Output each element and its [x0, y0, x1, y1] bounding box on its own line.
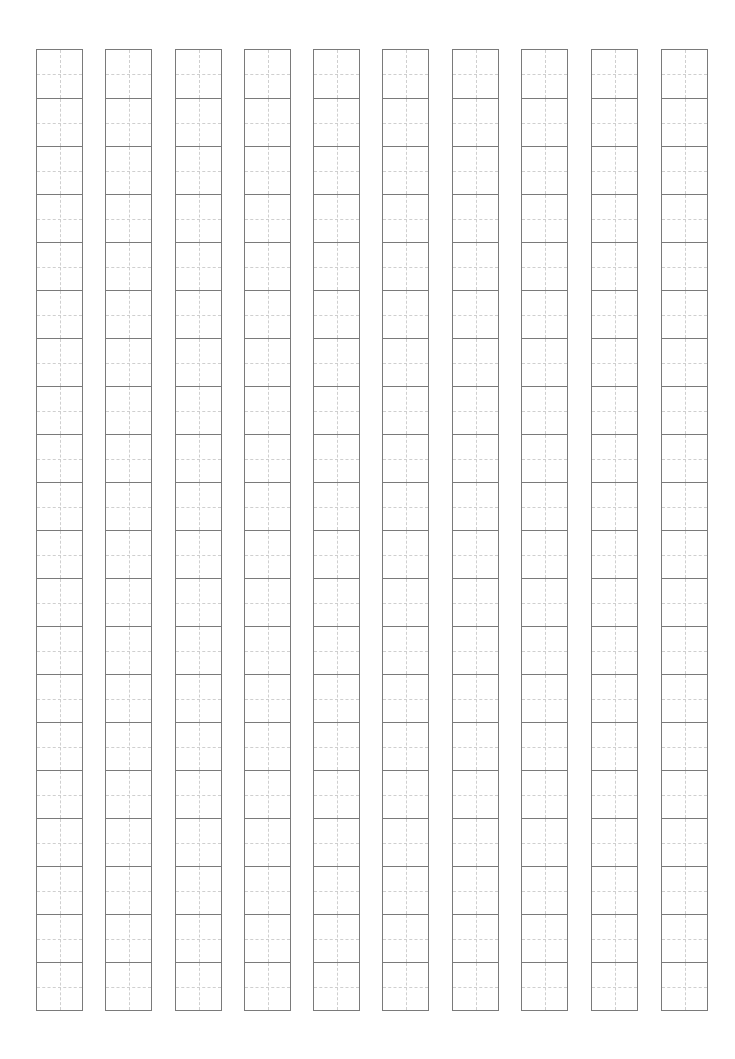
grid-cell	[314, 50, 359, 98]
grid-column-4	[244, 49, 291, 1011]
horizontal-guide-line	[383, 747, 428, 748]
grid-cell	[453, 770, 498, 818]
grid-cell	[383, 866, 428, 914]
horizontal-guide-line	[662, 555, 707, 556]
horizontal-guide-line	[245, 219, 290, 220]
grid-cell	[592, 626, 637, 674]
horizontal-guide-line	[662, 891, 707, 892]
grid-cell	[592, 290, 637, 338]
grid-column-3	[175, 49, 222, 1011]
horizontal-guide-line	[522, 315, 567, 316]
grid-cell	[592, 146, 637, 194]
grid-cell	[245, 482, 290, 530]
grid-cell	[383, 242, 428, 290]
horizontal-guide-line	[176, 74, 221, 75]
grid-cell	[314, 146, 359, 194]
horizontal-guide-line	[453, 603, 498, 604]
horizontal-guide-line	[314, 651, 359, 652]
horizontal-guide-line	[176, 651, 221, 652]
horizontal-guide-line	[176, 123, 221, 124]
horizontal-guide-line	[453, 363, 498, 364]
grid-cell	[314, 674, 359, 722]
grid-cell	[37, 914, 82, 962]
horizontal-guide-line	[245, 747, 290, 748]
horizontal-guide-line	[453, 171, 498, 172]
grid-column-7	[452, 49, 499, 1011]
horizontal-guide-line	[37, 219, 82, 220]
horizontal-guide-line	[522, 987, 567, 988]
horizontal-guide-line	[245, 411, 290, 412]
horizontal-guide-line	[453, 74, 498, 75]
grid-cell	[453, 146, 498, 194]
grid-cell	[383, 626, 428, 674]
horizontal-guide-line	[245, 123, 290, 124]
horizontal-guide-line	[314, 987, 359, 988]
horizontal-guide-line	[314, 363, 359, 364]
grid-cell	[383, 338, 428, 386]
horizontal-guide-line	[383, 651, 428, 652]
grid-cell	[522, 674, 567, 722]
horizontal-guide-line	[522, 171, 567, 172]
grid-cell	[592, 338, 637, 386]
grid-cell	[314, 242, 359, 290]
horizontal-guide-line	[453, 459, 498, 460]
horizontal-guide-line	[245, 171, 290, 172]
grid-cell	[592, 962, 637, 1010]
grid-cell	[245, 674, 290, 722]
grid-cell	[453, 290, 498, 338]
horizontal-guide-line	[662, 171, 707, 172]
grid-cell	[106, 434, 151, 482]
horizontal-guide-line	[383, 987, 428, 988]
horizontal-guide-line	[245, 651, 290, 652]
horizontal-guide-line	[245, 267, 290, 268]
horizontal-guide-line	[592, 891, 637, 892]
horizontal-guide-line	[37, 74, 82, 75]
horizontal-guide-line	[383, 363, 428, 364]
horizontal-guide-line	[662, 699, 707, 700]
grid-cell	[662, 722, 707, 770]
grid-cell	[453, 338, 498, 386]
grid-cell	[453, 242, 498, 290]
horizontal-guide-line	[662, 267, 707, 268]
horizontal-guide-line	[383, 459, 428, 460]
horizontal-guide-line	[662, 651, 707, 652]
grid-cell	[662, 530, 707, 578]
horizontal-guide-line	[106, 843, 151, 844]
grid-cell	[106, 674, 151, 722]
horizontal-guide-line	[37, 315, 82, 316]
horizontal-guide-line	[106, 459, 151, 460]
grid-cell	[662, 626, 707, 674]
grid-cell	[37, 290, 82, 338]
horizontal-guide-line	[662, 603, 707, 604]
horizontal-guide-line	[106, 795, 151, 796]
grid-cell	[383, 482, 428, 530]
grid-cell	[37, 722, 82, 770]
grid-cell	[314, 338, 359, 386]
horizontal-guide-line	[245, 795, 290, 796]
horizontal-guide-line	[176, 843, 221, 844]
grid-cell	[176, 866, 221, 914]
horizontal-guide-line	[662, 795, 707, 796]
horizontal-guide-line	[176, 171, 221, 172]
grid-cell	[106, 914, 151, 962]
grid-cell	[37, 626, 82, 674]
horizontal-guide-line	[176, 987, 221, 988]
grid-cell	[37, 194, 82, 242]
horizontal-guide-line	[592, 315, 637, 316]
horizontal-guide-line	[106, 939, 151, 940]
grid-cell	[245, 962, 290, 1010]
grid-cell	[37, 146, 82, 194]
horizontal-guide-line	[592, 267, 637, 268]
grid-cell	[383, 818, 428, 866]
horizontal-guide-line	[106, 74, 151, 75]
horizontal-guide-line	[453, 747, 498, 748]
grid-cell	[314, 482, 359, 530]
horizontal-guide-line	[383, 171, 428, 172]
horizontal-guide-line	[522, 363, 567, 364]
horizontal-guide-line	[522, 267, 567, 268]
grid-cell	[522, 818, 567, 866]
horizontal-guide-line	[314, 699, 359, 700]
horizontal-guide-line	[383, 843, 428, 844]
horizontal-guide-line	[37, 891, 82, 892]
grid-cell	[106, 770, 151, 818]
